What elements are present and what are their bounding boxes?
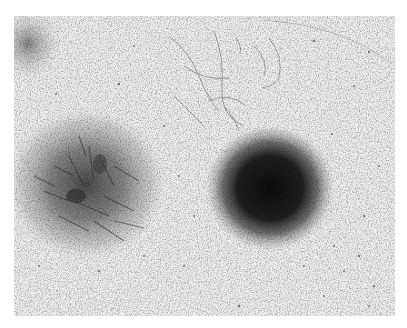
micrograph-photo (14, 16, 395, 316)
colony-illustration (14, 16, 395, 316)
film-grain (14, 16, 395, 316)
